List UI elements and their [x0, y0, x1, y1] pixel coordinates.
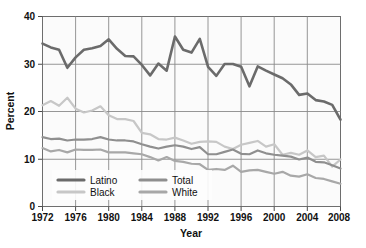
x-tick-label-2008: 2008: [328, 212, 351, 223]
chart-legend: Latino Black Total White: [52, 170, 212, 200]
y-tick-label-40: 40: [24, 11, 36, 22]
legend-label-total: Total: [172, 175, 193, 186]
line-chart: 40 30 20 10 0 1972 1976 1980 1984 1988 1…: [0, 0, 366, 248]
x-tick-label-1984: 1984: [131, 212, 154, 223]
x-tick-label-1988: 1988: [164, 212, 187, 223]
x-tickmarks: [43, 207, 341, 212]
y-tick-label-0: 0: [29, 201, 35, 212]
y-tick-label-30: 30: [24, 59, 36, 70]
y-tickmarks: [38, 17, 43, 207]
legend-label-white: White: [172, 187, 198, 198]
x-tick-label-1980: 1980: [98, 212, 121, 223]
y-tick-label-10: 10: [24, 154, 36, 165]
y-tick-label-20: 20: [24, 106, 36, 117]
legend-label-black: Black: [90, 187, 115, 198]
y-tick-labels: 40 30 20 10 0: [24, 11, 36, 212]
x-tick-labels: 1972 1976 1980 1984 1988 1992 1996 2000 …: [31, 212, 350, 223]
x-axis-title: Year: [180, 227, 202, 239]
y-axis-title: Percent: [4, 91, 16, 130]
x-tick-label-1972: 1972: [31, 212, 54, 223]
x-tick-label-1996: 1996: [230, 212, 253, 223]
chart-container: 40 30 20 10 0 1972 1976 1980 1984 1988 1…: [0, 0, 366, 248]
x-tick-label-2004: 2004: [296, 212, 319, 223]
x-tick-label-2000: 2000: [263, 212, 286, 223]
x-tick-label-1992: 1992: [197, 212, 220, 223]
x-tick-label-1976: 1976: [64, 212, 87, 223]
legend-label-latino: Latino: [90, 175, 118, 186]
